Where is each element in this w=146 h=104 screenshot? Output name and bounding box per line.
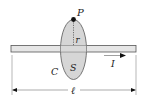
ampere-loop-diagram: P r C S I ℓ [0, 0, 146, 104]
label-length: ℓ [71, 85, 75, 96]
label-p: P [76, 7, 84, 18]
length-arrow-right-icon [131, 88, 136, 92]
wire-through-loop [61, 46, 87, 53]
label-c: C [51, 66, 59, 77]
point-p-dot [71, 17, 76, 22]
label-s: S [70, 62, 77, 73]
label-i: I [110, 58, 115, 69]
length-arrow-left-icon [12, 88, 17, 92]
current-arrow-head-icon [120, 53, 126, 58]
